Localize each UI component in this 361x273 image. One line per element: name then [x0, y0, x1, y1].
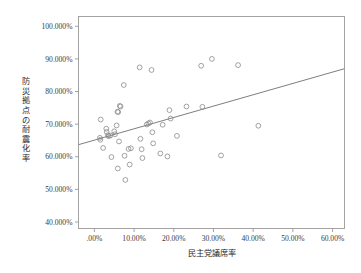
x-axis-title: 民主党議席率 [188, 248, 236, 258]
y-axis-title-char: 化 [22, 143, 30, 153]
x-tick-label: .00% [86, 234, 102, 243]
y-axis-title-char: 率 [22, 153, 30, 163]
y-tick-label: 70.000% [45, 120, 73, 129]
x-tick-label: 20.00% [162, 234, 186, 243]
y-axis-title-char: 震 [22, 134, 30, 144]
x-tick-label: 10.00% [122, 234, 146, 243]
y-tick-label: 50.000% [45, 185, 73, 194]
y-axis-title-char: 耐 [22, 124, 30, 134]
y-axis-title: 防災拠点の耐震化率 [22, 76, 30, 163]
y-tick-label: 100.000% [41, 22, 73, 31]
y-tick-label: 40.000% [45, 218, 73, 227]
plot-frame [79, 17, 345, 229]
y-axis-title-char: 拠 [22, 95, 30, 105]
y-axis-title-char: 災 [22, 86, 30, 96]
y-axis-title-char: の [22, 115, 30, 125]
x-tick-label: 30.00% [202, 234, 226, 243]
y-axis-title-char: 点 [22, 105, 30, 115]
y-tick-label: 90.000% [45, 55, 73, 64]
x-tick-label: 50.00% [281, 234, 305, 243]
x-tick-label: 60.00% [321, 234, 345, 243]
chart-canvas: 40.000%50.000%60.000%70.000%80.000%90.00… [0, 0, 361, 273]
x-tick-label: 40.00% [241, 234, 265, 243]
scatter-chart: 40.000%50.000%60.000%70.000%80.000%90.00… [0, 0, 361, 273]
y-tick-label: 60.000% [45, 152, 73, 161]
y-tick-label: 80.000% [45, 87, 73, 96]
y-axis-title-char: 防 [22, 76, 30, 86]
